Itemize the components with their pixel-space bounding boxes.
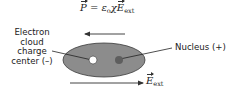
atom-ellipse bbox=[63, 43, 145, 77]
nucleus-label: Nucleus (+) bbox=[175, 43, 226, 53]
polarization-symbol: P bbox=[80, 2, 87, 13]
nucleus-dot bbox=[115, 56, 123, 64]
external-field-label: Eext bbox=[146, 75, 163, 88]
atom-polarization-diagram: P = εoχEext Electron cloud charge center… bbox=[0, 0, 240, 98]
external-field-symbol: E bbox=[146, 75, 153, 86]
field-subscript: ext bbox=[124, 7, 134, 15]
external-field-subscript: ext bbox=[153, 80, 163, 88]
electron-cloud-label: Electron cloud charge center (–) bbox=[6, 28, 58, 66]
polarization-formula: P = εoχEext bbox=[80, 2, 134, 15]
electron-center-dot bbox=[89, 56, 97, 64]
field-symbol: E bbox=[117, 2, 124, 13]
electron-label-line-4: center (–) bbox=[6, 57, 58, 67]
equals-sign: = bbox=[87, 2, 102, 13]
